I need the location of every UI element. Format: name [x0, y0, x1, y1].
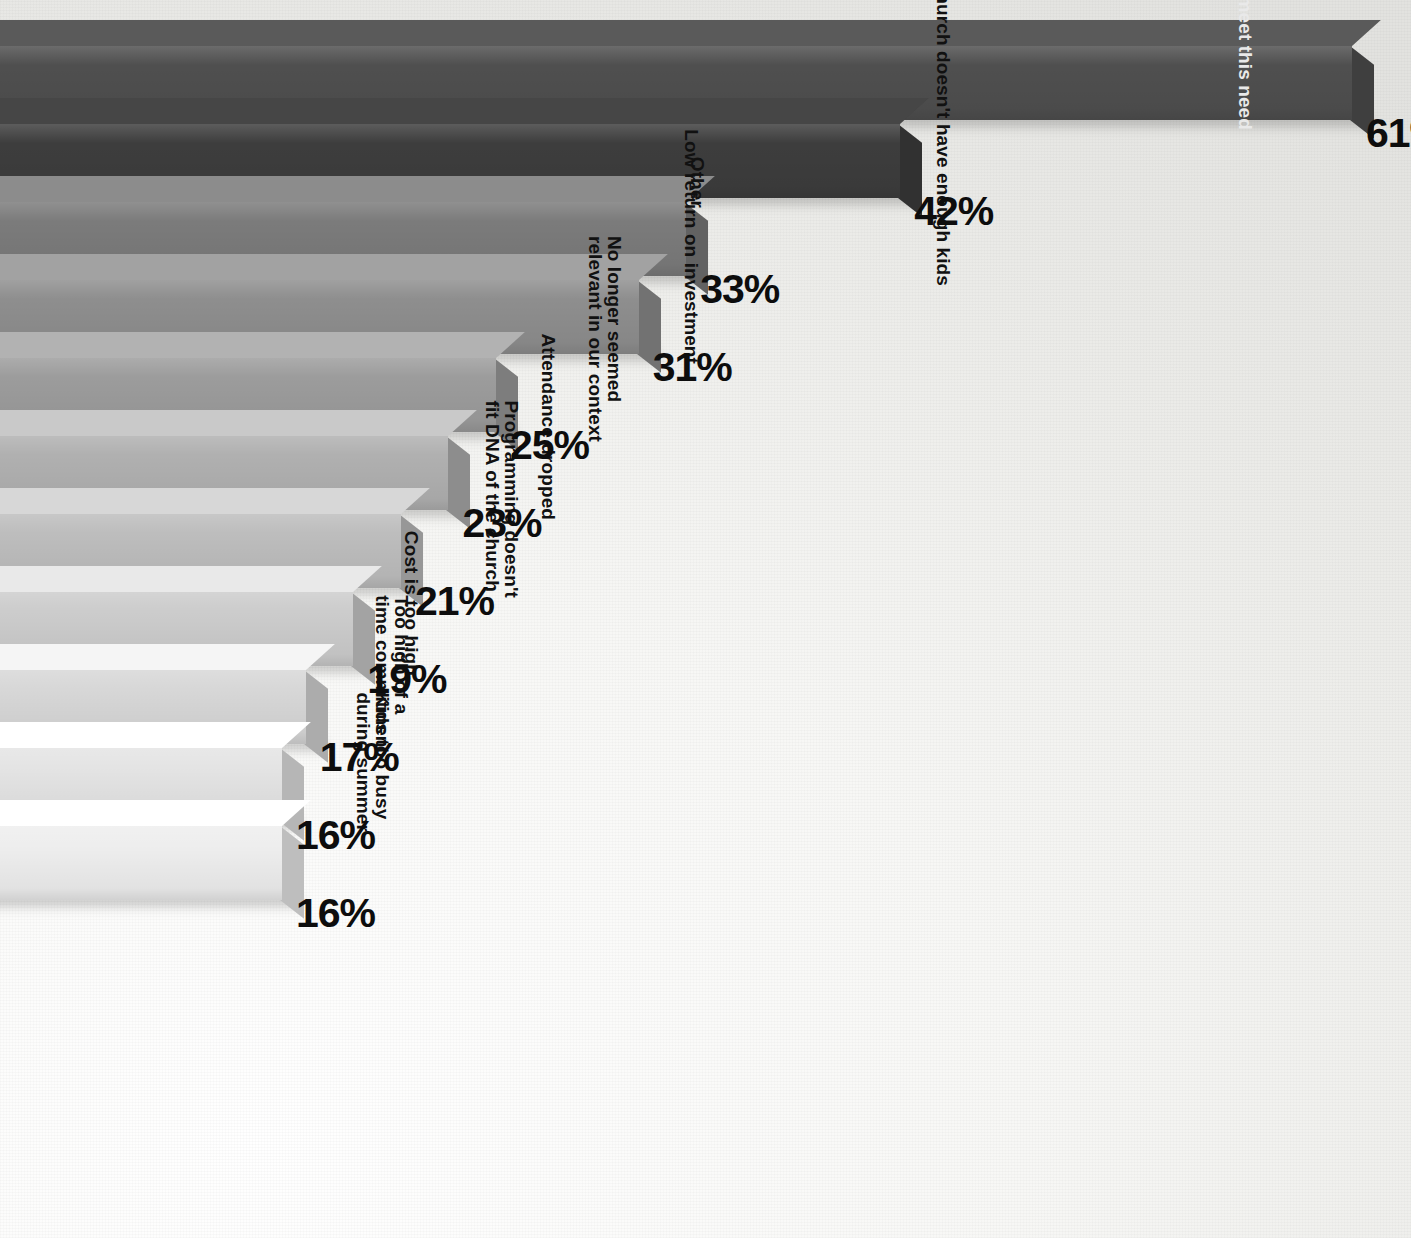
bar-top-face [0, 20, 1381, 46]
bar-category-label: Other churches in our area meet this nee… [1236, 0, 1255, 130]
bar-value-label: 31% [653, 344, 732, 391]
bar-value-label: 16% [296, 812, 375, 859]
bar-top-face [0, 722, 311, 748]
bar-top-face [0, 410, 477, 436]
bar-top-face [0, 332, 525, 358]
bar-top-face [0, 176, 715, 202]
bar-front-face [0, 826, 282, 900]
bar-category-label: Low return on investment [681, 129, 700, 364]
bar-top-face [0, 488, 430, 514]
bar-category-label: No longer seemed relevant in our context [586, 236, 625, 442]
bar-value-label: 21% [415, 578, 494, 625]
chart-canvas: WHY CHURCHES STOPPED VBS Too difficult t… [0, 0, 1411, 1238]
bar-top-face [0, 644, 335, 670]
bar-value-label: 42% [914, 188, 993, 235]
bar-chart: Too difficult to recruit teachers and vo… [0, 0, 1411, 1238]
bar-value-label: 25% [510, 422, 589, 469]
bar-value-label: 17% [320, 734, 399, 781]
bar-top-face [0, 800, 311, 826]
bar-value-label: 23% [462, 500, 541, 547]
bar-value-label: 61% [1366, 110, 1411, 157]
bar-value-label: 33% [700, 266, 779, 313]
bar-top-face [0, 566, 382, 592]
bar-top-face [0, 98, 929, 124]
bar-value-label: 16% [296, 890, 375, 937]
bar-value-label: 19% [367, 656, 446, 703]
bar-category-label: Our church doesn't have enough kids [933, 0, 952, 286]
bar-top-face [0, 254, 668, 280]
